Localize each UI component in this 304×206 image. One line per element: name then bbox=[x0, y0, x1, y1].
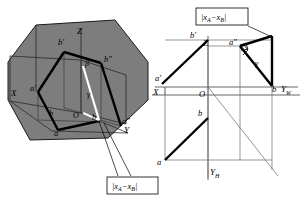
right-point-label-b-top: b bbox=[198, 108, 202, 118]
left-point-label-a-side: a″ bbox=[122, 116, 130, 126]
right-construction-lines bbox=[165, 40, 278, 178]
right-angle-label-gamma: γ bbox=[255, 58, 259, 68]
right-point-label-b-side: b bbox=[272, 84, 276, 94]
left-point-label-b-plain: b bbox=[92, 113, 96, 122]
right-origin-label: O bbox=[199, 89, 205, 99]
right-axis-label-x: X bbox=[152, 87, 159, 97]
right-point-label-a-front: a' bbox=[155, 73, 161, 83]
right-axis-label-yw: YW bbox=[281, 84, 292, 96]
figure-canvas: Z X Y O b' b″ a' a″ a b b β γ |xA−xB| bbox=[0, 0, 304, 206]
left-view-group: Z X Y O b' b″ a' a″ a b b β γ |xA−xB| bbox=[8, 20, 158, 194]
left-point-label-b-side: b″ bbox=[104, 54, 112, 64]
left-point-label-a-top: a bbox=[54, 128, 58, 138]
right-point-label-a-top: a bbox=[157, 157, 161, 167]
left-point-label-b-front: b' bbox=[58, 37, 64, 47]
left-axis-label-x: X bbox=[10, 88, 17, 98]
right-axis-lines bbox=[152, 36, 300, 180]
left-point-label-b-top: b bbox=[49, 109, 53, 118]
distance-callout-left[interactable]: |xA−xB| bbox=[107, 177, 158, 194]
right-axis-label-yh: YH bbox=[210, 167, 220, 179]
technical-drawing-svg: Z X Y O b' b″ a' a″ a b b β γ |xA−xB| bbox=[0, 0, 304, 206]
right-point-label-a-side: a″ bbox=[229, 37, 237, 47]
left-axis-label-y: Y bbox=[124, 125, 130, 135]
callout-leader-right bbox=[248, 26, 272, 37]
right-point-label-b-front: b' bbox=[190, 30, 196, 40]
left-angle-label-beta: β bbox=[84, 59, 89, 68]
left-point-label-a-front: a' bbox=[30, 83, 36, 93]
left-origin-label: O bbox=[73, 111, 79, 120]
distance-callout-right[interactable]: |xA−xB| bbox=[196, 8, 248, 25]
right-view-group: Z X YW YH O a' b' a″ b b a γ |xA−xB| bbox=[152, 8, 300, 180]
